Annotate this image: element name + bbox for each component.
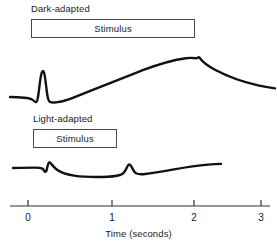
light-adapted-trace bbox=[13, 162, 221, 177]
x-tick-label-2: 2 bbox=[184, 212, 204, 223]
x-axis-title: Time (seconds) bbox=[0, 228, 277, 239]
erg-figure: Dark-adapted Light-adapted Stimulus Stim… bbox=[0, 0, 277, 245]
x-tick-label-1: 1 bbox=[102, 212, 122, 223]
x-tick-label-3: 3 bbox=[251, 212, 271, 223]
dark-adapted-trace bbox=[10, 57, 275, 102]
x-tick-label-0: 0 bbox=[18, 212, 38, 223]
waveform-canvas bbox=[0, 0, 277, 245]
